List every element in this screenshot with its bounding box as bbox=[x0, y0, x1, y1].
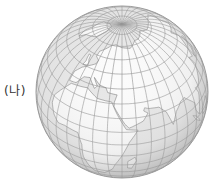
globe-shading bbox=[36, 6, 208, 178]
globe-map bbox=[0, 0, 220, 185]
